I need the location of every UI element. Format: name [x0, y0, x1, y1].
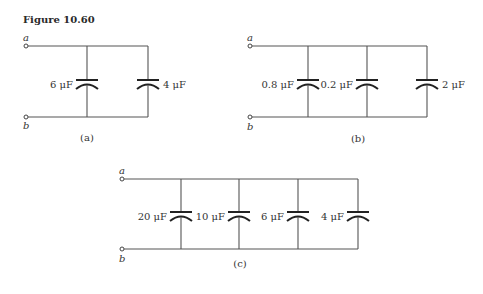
capacitor-label: 10 μF [196, 211, 225, 222]
terminal-b-label: b [119, 253, 125, 264]
terminal-a-label: a [247, 32, 253, 43]
capacitor-label: 0.8 μF [261, 79, 294, 90]
terminal-a [24, 44, 28, 48]
terminal-b-label: b [23, 120, 29, 131]
terminal-b [24, 115, 28, 119]
caption-b: (b) [351, 133, 365, 144]
caption-a: (a) [80, 132, 94, 143]
capacitor: 0.2 μF [320, 46, 378, 117]
capacitor: 10 μF [196, 179, 250, 249]
capacitor-label: 20 μF [138, 211, 167, 222]
terminal-a-label: a [23, 32, 29, 43]
circuit-diagrams: a b 6 μF 4 μF (a) a b [0, 0, 483, 294]
terminal-b [120, 247, 124, 251]
terminal-a-label: a [119, 165, 125, 176]
circuit-c: a b 20 μF 10 μF 6 μF [119, 165, 369, 269]
capacitor: 4 μF [137, 46, 186, 117]
capacitor-label: 2 μF [442, 79, 465, 90]
terminal-a [120, 177, 124, 181]
capacitor-label: 4 μF [163, 79, 186, 90]
circuit-b: a b 0.8 μF 0.2 μF 2 μF (b) [247, 32, 465, 144]
capacitor-label: 6 μF [261, 211, 284, 222]
capacitor: 0.8 μF [261, 46, 319, 117]
capacitor: 2 μF [416, 46, 465, 117]
capacitor-label: 4 μF [321, 211, 344, 222]
terminal-b-label: b [247, 121, 253, 132]
terminal-b [248, 115, 252, 119]
circuit-a: a b 6 μF 4 μF (a) [23, 32, 186, 143]
capacitor-label: 0.2 μF [320, 79, 353, 90]
terminal-a [248, 44, 252, 48]
capacitor: 20 μF [138, 179, 192, 249]
capacitor: 6 μF [261, 179, 309, 249]
capacitor: 6 μF [50, 46, 98, 117]
capacitor: 4 μF [321, 179, 369, 249]
caption-c: (c) [233, 258, 247, 269]
capacitor-label: 6 μF [50, 79, 73, 90]
